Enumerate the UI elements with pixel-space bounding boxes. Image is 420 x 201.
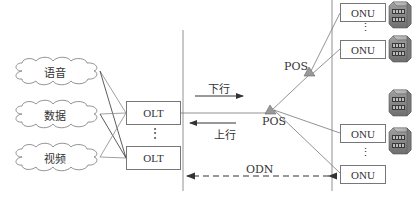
onu-label: ONU — [351, 44, 375, 56]
distribution-fibers — [272, 13, 340, 173]
server-icon — [389, 90, 411, 116]
source-label-data: 数据 — [10, 107, 100, 123]
olt-ellipsis: ⋮ — [149, 126, 161, 140]
source-olt-links — [100, 71, 126, 158]
server-icon — [389, 2, 411, 28]
server-icon — [389, 36, 411, 62]
onu-box-2: ONU — [340, 40, 386, 59]
olt-label: OLT — [143, 152, 163, 164]
olt-box-1: OLT — [126, 101, 181, 125]
onu-label: ONU — [351, 7, 375, 19]
server-icon — [389, 128, 411, 154]
onu-box-4: ONU — [340, 165, 386, 184]
onu-ellipsis-top: ⋮ — [360, 21, 371, 34]
downstream-label: 下行 — [208, 80, 230, 96]
onu-label: ONU — [351, 128, 375, 140]
olt-label: OLT — [143, 107, 163, 119]
splitter-main-label: POS — [262, 115, 286, 128]
onu-box-3: ONU — [340, 124, 386, 143]
olt-box-2: OLT — [126, 146, 181, 170]
splitter-main-icon — [265, 105, 276, 114]
onu-label: ONU — [351, 169, 375, 181]
source-label-video: 视频 — [10, 150, 100, 166]
source-label-voice: 语音 — [10, 64, 100, 80]
onu-box-1: ONU — [340, 3, 386, 22]
odn-label: ODN — [246, 163, 273, 176]
upstream-label: 上行 — [214, 126, 236, 142]
onu-ellipsis-bottom: ⋮ — [360, 146, 371, 159]
splitter-secondary-label: POS — [284, 60, 308, 73]
